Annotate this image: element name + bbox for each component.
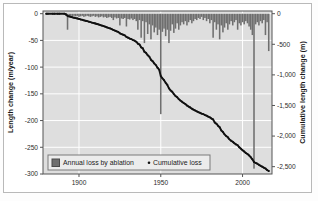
annual-loss-bar xyxy=(124,14,126,18)
annual-loss-bar xyxy=(204,14,206,18)
cumulative-loss-point xyxy=(134,40,136,42)
annual-loss-bar xyxy=(145,14,147,23)
cumulative-loss-point xyxy=(127,37,129,39)
cumulative-loss-point xyxy=(161,77,163,79)
cumulative-loss-point xyxy=(243,151,245,153)
annual-loss-bar xyxy=(265,14,267,35)
annual-loss-bar xyxy=(212,14,214,38)
annual-loss-bar xyxy=(165,14,167,36)
annual-loss-bar xyxy=(245,14,247,21)
cumulative-loss-point xyxy=(112,29,114,31)
cumulative-loss-point xyxy=(165,82,167,84)
cumulative-loss-point xyxy=(163,79,165,81)
annual-loss-bar xyxy=(142,14,144,21)
annual-loss-bar xyxy=(219,14,221,40)
annual-loss-bar xyxy=(235,14,237,20)
annual-loss-bar xyxy=(113,14,115,20)
cumulative-loss-point xyxy=(171,91,173,93)
cumulative-loss-point xyxy=(247,153,249,155)
ytick-label-left: -50 xyxy=(28,37,38,44)
annual-loss-bar xyxy=(255,14,257,25)
annual-loss-bar xyxy=(153,14,155,33)
cumulative-loss-point xyxy=(150,59,152,61)
annual-loss-bar xyxy=(111,14,113,18)
cumulative-loss-point xyxy=(184,103,186,105)
cumulative-loss-point xyxy=(85,20,87,22)
annual-loss-bar xyxy=(99,14,101,17)
annual-loss-bar xyxy=(150,14,152,40)
cumulative-loss-point xyxy=(176,96,178,98)
annual-loss-bar xyxy=(181,14,183,23)
cumulative-loss-point xyxy=(189,106,191,108)
cumulative-loss-point xyxy=(132,39,134,41)
cumulative-loss-point xyxy=(129,38,131,40)
y-axis-title-left: Length change (m/year) xyxy=(7,51,15,133)
cumulative-loss-point xyxy=(186,105,188,107)
annual-loss-bar xyxy=(186,14,188,26)
annual-loss-bar xyxy=(257,14,259,23)
cumulative-loss-point xyxy=(225,135,227,137)
annual-loss-bar xyxy=(188,14,190,23)
cumulative-loss-point xyxy=(253,161,255,163)
cumulative-loss-point xyxy=(76,18,78,20)
annual-loss-bar xyxy=(101,14,103,17)
annual-loss-bar xyxy=(134,14,136,19)
cumulative-loss-point xyxy=(237,144,239,146)
annual-loss-bar xyxy=(247,14,249,24)
cumulative-loss-point xyxy=(240,148,242,150)
cumulative-loss-point xyxy=(139,44,141,46)
cumulative-loss-point xyxy=(147,54,149,56)
annual-loss-bar xyxy=(201,14,203,17)
cumulative-loss-point xyxy=(256,163,258,165)
annual-loss-bar xyxy=(119,14,121,26)
cumulative-loss-point xyxy=(107,27,109,29)
cumulative-loss-point xyxy=(258,164,260,166)
cumulative-loss-point xyxy=(168,87,170,89)
cumulative-loss-point xyxy=(196,110,198,112)
cumulative-loss-point xyxy=(91,22,93,24)
annual-loss-bar xyxy=(122,14,124,19)
annual-loss-bar xyxy=(175,14,177,29)
cumulative-loss-point xyxy=(166,84,168,86)
annual-loss-bar xyxy=(103,14,105,18)
annual-loss-bar xyxy=(93,14,95,16)
legend: Annual loss by ablationCumulative loss xyxy=(52,159,202,167)
cumulative-loss-point xyxy=(202,113,204,115)
cumulative-loss-point xyxy=(142,47,144,49)
cumulative-loss-point xyxy=(94,23,96,25)
annual-loss-bar xyxy=(155,14,157,28)
annual-loss-bar xyxy=(189,14,191,20)
annual-loss-bar xyxy=(242,14,244,23)
ytick-label-left: -200 xyxy=(25,117,39,124)
cumulative-loss-point xyxy=(191,108,193,110)
annual-loss-bar xyxy=(230,14,232,21)
cumulative-loss-point xyxy=(116,30,118,32)
cumulative-loss-point xyxy=(52,13,54,15)
cumulative-loss-point xyxy=(104,26,106,28)
cumulative-loss-point xyxy=(67,15,69,17)
cumulative-loss-point xyxy=(179,100,181,102)
annual-loss-bar xyxy=(240,14,242,26)
cumulative-loss-point xyxy=(268,170,270,172)
cumulative-loss-point xyxy=(121,33,123,35)
xtick-label: 1900 xyxy=(72,179,87,186)
cumulative-loss-point xyxy=(181,101,183,103)
cumulative-loss-point xyxy=(263,167,265,169)
cumulative-loss-point xyxy=(207,116,209,118)
cumulative-loss-point xyxy=(217,125,219,127)
cumulative-loss-point xyxy=(93,22,95,24)
annual-loss-bar xyxy=(162,14,164,32)
annual-loss-bar xyxy=(260,14,262,21)
annual-loss-bar xyxy=(131,14,133,19)
cumulative-loss-point xyxy=(250,156,252,158)
annual-loss-bar xyxy=(248,14,250,27)
annual-loss-bar xyxy=(126,14,128,27)
xtick-label: 2000 xyxy=(235,179,250,186)
cumulative-loss-point xyxy=(106,26,108,28)
annual-loss-bar xyxy=(203,14,205,20)
annual-loss-bar xyxy=(160,14,162,114)
cumulative-loss-point xyxy=(158,69,160,71)
annual-loss-bar xyxy=(73,14,75,16)
figure: 0-50-100-150-200-250-3000-500-1,000-1,50… xyxy=(0,0,318,201)
cumulative-loss-point xyxy=(211,118,213,120)
